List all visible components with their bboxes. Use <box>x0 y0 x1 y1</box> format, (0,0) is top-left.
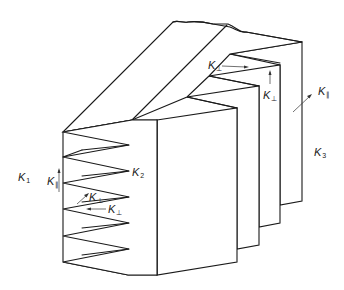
label-k-perp-top-vertical: K⊥ <box>263 90 277 102</box>
label-k-perp-top: K⊥ <box>208 60 222 72</box>
label-k-parallel-left: K∥ <box>47 176 59 188</box>
label-k-parallel-right: K∥ <box>318 86 330 98</box>
label-k2: K2 <box>132 167 144 179</box>
label-k1: K1 <box>18 172 30 184</box>
diagram-canvas: K1 K2 K3 K∥ K⊥ K⊥ K⊥ K⊥ K∥ <box>0 0 344 290</box>
label-k3: K3 <box>314 147 326 159</box>
diagram-drawing <box>0 0 344 290</box>
label-k-perp-left-upper: K⊥ <box>89 192 103 204</box>
label-k-perp-left-lower: K⊥ <box>108 204 122 216</box>
